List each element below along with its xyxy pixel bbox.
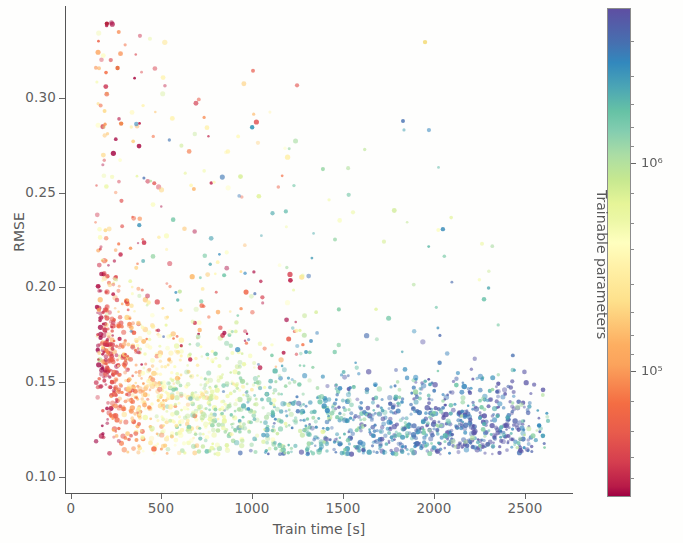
colorbar-minor-tick — [631, 354, 634, 355]
colorbar-minor-tick — [631, 104, 634, 105]
colorbar-minor-tick — [631, 431, 634, 432]
colorbar-minor-tick — [631, 223, 634, 224]
colorbar-minor-tick — [631, 335, 634, 336]
colorbar-gradient — [607, 8, 631, 497]
colorbar: 10⁶ 10⁵ — [607, 8, 631, 497]
colorbar-minor-tick — [631, 127, 634, 128]
colorbar-minor-tick — [631, 76, 634, 77]
colorbar-tick-mark — [631, 163, 636, 164]
colorbar-minor-tick — [631, 312, 634, 313]
colorbar-minor-tick — [631, 457, 634, 458]
colorbar-minor-tick — [631, 41, 634, 42]
colorbar-minor-tick — [631, 401, 634, 402]
scatter-figure: 0.30 0.25 0.20 0.15 0.10 0 500 1000 1500… — [0, 0, 683, 543]
colorbar-minor-tick — [631, 193, 634, 194]
colorbar-tick-label-1e6: 10⁶ — [641, 156, 663, 169]
colorbar-tick-label-text: 10⁵ — [641, 363, 663, 378]
colorbar-minor-tick — [631, 478, 634, 479]
colorbar-minor-tick — [631, 146, 634, 147]
colorbar-tick-label-1e5: 10⁵ — [641, 364, 663, 377]
colorbar-minor-tick — [631, 249, 634, 250]
colorbar-tick-label-text: 10⁶ — [641, 155, 663, 170]
colorbar-minor-tick — [631, 284, 634, 285]
colorbar-tick-mark — [631, 371, 636, 372]
scatter-points-layer — [0, 0, 683, 543]
colorbar-title: Trainable parameters — [594, 190, 610, 390]
